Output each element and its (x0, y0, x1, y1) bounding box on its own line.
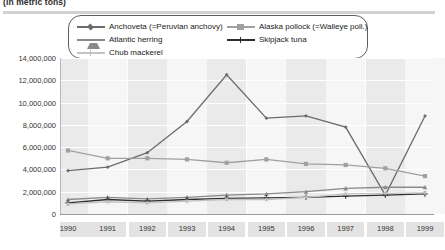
legend-swatch-star-icon (77, 48, 105, 57)
y-axis-tick-label: 12,000,000 (18, 76, 56, 85)
data-point-star (185, 199, 189, 203)
data-point-star (66, 202, 70, 206)
x-axis-tick-label: 1994 (218, 224, 235, 233)
x-axis-tick-label: 1996 (298, 224, 315, 233)
y-axis-tick-label: 2,000,000 (23, 187, 56, 196)
data-point-square (383, 166, 387, 170)
data-point-star (304, 195, 308, 199)
x-axis-line (60, 214, 434, 215)
data-point-star (106, 200, 110, 204)
y-axis-line (60, 58, 61, 215)
legend-label: Chub mackerel (109, 48, 163, 57)
legend-item[interactable]: Anchoveta (=Peruvian anchovy) (77, 22, 227, 31)
x-axis-tick-label: 1997 (337, 224, 354, 233)
data-point-square (185, 157, 189, 161)
y-axis-labels: 02,000,0004,000,0006,000,0008,000,00010,… (0, 58, 56, 215)
legend-label: Skipjack tuna (259, 35, 307, 44)
legend-swatch-cross-icon (227, 35, 255, 44)
y-axis-tick-label: 8,000,000 (23, 120, 56, 129)
y-axis-tick-label: 10,000,000 (18, 98, 56, 107)
x-axis-tick-label: 1992 (139, 224, 156, 233)
data-point-star (344, 192, 348, 196)
data-point-square (423, 174, 427, 178)
legend-swatch-diamond-icon (77, 22, 105, 31)
header-divider (3, 11, 435, 14)
series-lines (60, 58, 433, 214)
x-axis-tick-label: 1993 (179, 224, 196, 233)
data-point-star (264, 197, 268, 201)
legend-swatch-square-icon (227, 22, 255, 31)
legend-label: Alaska pollock (=Walleye poll.) (259, 22, 367, 31)
data-point-square (304, 162, 308, 166)
y-axis-tick-label: 6,000,000 (23, 143, 56, 152)
y-axis-tick-label: 0 (52, 210, 56, 219)
x-axis-tick-label: 1991 (99, 224, 116, 233)
data-point-square (66, 148, 70, 152)
x-axis-tick-label: 1999 (417, 224, 434, 233)
data-point-star (225, 197, 229, 201)
y-axis-tick-label: 4,000,000 (23, 165, 56, 174)
data-point-star (423, 191, 427, 195)
x-axis-tick-label: 1995 (258, 224, 275, 233)
legend-label: Anchoveta (=Peruvian anchovy) (109, 22, 223, 31)
data-point-star (383, 191, 387, 195)
chart-legend: Anchoveta (=Peruvian anchovy)Alaska poll… (68, 15, 368, 59)
data-point-square (264, 157, 268, 161)
data-point-diamond (66, 169, 70, 173)
data-point-diamond (106, 165, 110, 169)
data-point-square (344, 163, 348, 167)
data-point-square (225, 161, 229, 165)
chart-caption: (in metric tons) (3, 0, 66, 7)
x-axis-tick-label: 1990 (60, 224, 77, 233)
x-axis-labels: 1990199119921993199419951996199719981999 (60, 224, 433, 238)
legend-item[interactable]: Chub mackerel (77, 48, 227, 57)
series-line (68, 75, 425, 195)
y-axis-tick-label: 14,000,000 (18, 54, 56, 63)
data-point-star (145, 201, 149, 205)
legend-item[interactable]: Alaska pollock (=Walleye poll.) (227, 22, 377, 31)
plot-area (60, 58, 433, 214)
legend-swatch-triangle-icon (77, 35, 105, 44)
legend-label: Atlantic herring (109, 35, 162, 44)
data-point-square (106, 156, 110, 160)
x-axis-tick-label: 1998 (377, 224, 394, 233)
legend-item[interactable]: Skipjack tuna (227, 35, 377, 44)
data-point-square (145, 156, 149, 160)
data-point-diamond (304, 114, 308, 118)
legend-item[interactable]: Atlantic herring (77, 35, 227, 44)
